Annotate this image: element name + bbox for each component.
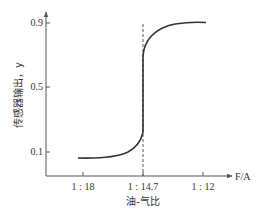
y-tick-label-0.5: 0.5 bbox=[31, 81, 44, 92]
sensor-output-curve bbox=[78, 22, 206, 158]
y-tick-label-0.1: 0.1 bbox=[31, 146, 44, 157]
x-axis-title: 油-气比 bbox=[126, 195, 160, 207]
sensor-output-chart: 0.9 0.5 0.1 1 : 18 1 : 14.7 1 : 12 F/A 油… bbox=[0, 0, 261, 217]
x-tick-label-1-18: 1 : 18 bbox=[72, 181, 95, 192]
x-tick-label-1-14.7: 1 : 14.7 bbox=[128, 181, 158, 192]
y-axis-title: 传感器输出，y bbox=[12, 62, 24, 128]
x-tick-label-1-12: 1 : 12 bbox=[192, 181, 215, 192]
x-axis-arrow-label: F/A bbox=[235, 171, 251, 182]
y-tick-label-0.9: 0.9 bbox=[31, 17, 44, 28]
